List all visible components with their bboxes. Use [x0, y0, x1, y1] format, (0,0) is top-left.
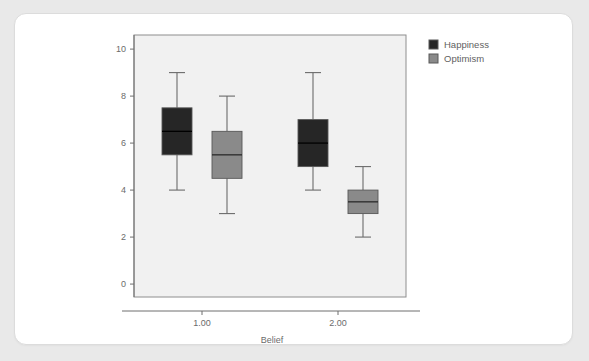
legend-swatch-optimism[interactable] [429, 54, 438, 63]
y-tick-label: 2 [121, 232, 126, 242]
x-axis-ticks: 1.002.00 [193, 311, 347, 328]
boxplot-svg: 02468101.002.00BeliefHappinessOptimism [15, 14, 574, 346]
chart-card: 02468101.002.00BeliefHappinessOptimism [14, 13, 573, 345]
y-tick-label: 6 [121, 138, 126, 148]
legend-label-happiness: Happiness [444, 39, 489, 50]
boxplot-figure: 02468101.002.00BeliefHappinessOptimism [15, 14, 574, 346]
x-axis-title: Belief [261, 335, 284, 345]
screenshot-root: 02468101.002.00BeliefHappinessOptimism [0, 0, 589, 361]
legend-swatch-happiness[interactable] [429, 40, 438, 49]
y-axis-ticks: 0246810 [116, 44, 134, 289]
legend: HappinessOptimism [429, 39, 489, 64]
y-tick-label: 0 [121, 279, 126, 289]
x-tick-label: 2.00 [329, 318, 347, 328]
y-tick-label: 10 [116, 44, 126, 54]
y-tick-label: 8 [121, 91, 126, 101]
y-tick-label: 4 [121, 185, 126, 195]
legend-label-optimism: Optimism [444, 53, 484, 64]
x-tick-label: 1.00 [193, 318, 211, 328]
plot-area-frame [134, 35, 406, 297]
